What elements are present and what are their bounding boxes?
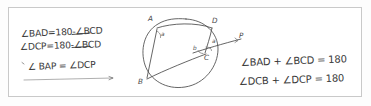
point-label-C: C <box>204 53 209 62</box>
left-derivation-group: ∠BAD=180-∠BCD ∠DCP=180-∠BCD ∠ BAP = ∠DCP <box>20 24 113 80</box>
geometry-diagram-group: A D P C B a a b <box>138 14 244 88</box>
point-label-D: D <box>212 16 218 25</box>
point-label-B: B <box>138 77 143 86</box>
whiteboard-canvas: ∠BAD=180-∠BCD ∠DCP=180-∠BCD ∠ BAP = ∠DCP <box>0 0 371 106</box>
angle-label-b-at-C: b <box>193 45 197 51</box>
chord-BC <box>147 54 206 79</box>
angle-label-a-at-A: a <box>161 31 165 37</box>
underline-rule <box>24 78 113 80</box>
conclusion-line-2: ∠DCB + ∠DCP = 180 <box>239 72 345 87</box>
angle-label-a-at-C: a <box>212 38 216 44</box>
chord-AB <box>147 29 157 78</box>
conclusion-line-1: ∠BAD + ∠BCD = 180 <box>241 53 347 68</box>
right-conclusions-group: ∠BAD + ∠BCD = 180 ∠DCB + ∠DCP = 180 <box>239 53 347 87</box>
angle-arc-at-A <box>157 31 161 38</box>
stray-mark <box>22 63 24 65</box>
point-label-P: P <box>239 31 244 40</box>
point-label-A: A <box>147 14 153 23</box>
derivation-line-2: ∠DCP=180-∠BCD <box>20 38 102 52</box>
derivation-line-1: ∠BAD=180-∠BCD <box>21 24 103 39</box>
handwriting-ink-layer: ∠BAD=180-∠BCD ∠DCP=180-∠BCD ∠ BAP = ∠DCP <box>0 0 371 106</box>
derivation-line-3: ∠ BAP = ∠DCP <box>28 59 97 72</box>
